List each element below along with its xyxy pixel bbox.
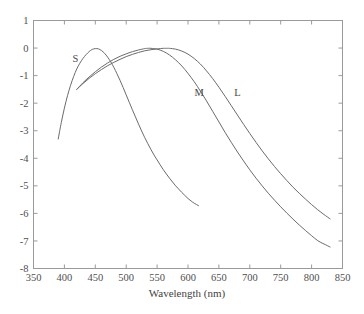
x-tick-label: 500 <box>118 272 134 283</box>
x-axis-tick-labels: 350400450500550600650700750800850 <box>26 272 351 283</box>
x-tick-label: 850 <box>335 272 351 283</box>
x-tick-label: 550 <box>149 272 165 283</box>
data-curves <box>58 48 330 247</box>
x-tick-label: 700 <box>242 272 258 283</box>
curve-label-s: S <box>73 53 79 64</box>
curve-annotations: SML <box>73 53 241 98</box>
y-tick-label: -7 <box>20 236 29 247</box>
chart-figure: 350400450500550600650700750800850 10-1-2… <box>0 0 364 314</box>
y-tick-label: -2 <box>20 98 29 109</box>
y-axis-tick-labels: 10-1-2-3-4-5-6-7-8 <box>20 15 29 274</box>
x-axis-title: Wavelength (nm) <box>149 287 226 300</box>
curve-label-l: L <box>234 87 240 98</box>
chart-canvas: 350400450500550600650700750800850 10-1-2… <box>0 0 364 314</box>
y-tick-label: 0 <box>23 43 28 54</box>
curve-l <box>77 48 330 219</box>
curve-s <box>58 49 198 206</box>
x-axis-ticks <box>34 21 343 269</box>
curve-label-m: M <box>194 87 204 98</box>
x-tick-label: 400 <box>57 272 73 283</box>
y-tick-label: -8 <box>20 263 29 274</box>
x-tick-label: 600 <box>180 272 196 283</box>
y-tick-label: 1 <box>23 15 28 26</box>
x-tick-label: 800 <box>304 272 320 283</box>
y-tick-label: -5 <box>20 180 29 191</box>
x-tick-label: 750 <box>273 272 289 283</box>
y-axis-ticks <box>34 21 343 269</box>
x-tick-label: 450 <box>87 272 103 283</box>
y-tick-label: -1 <box>20 70 29 81</box>
axes-frame <box>34 21 343 269</box>
curve-m <box>77 48 330 247</box>
x-tick-label: 650 <box>211 272 227 283</box>
y-tick-label: -4 <box>20 153 29 164</box>
y-tick-label: -3 <box>20 125 29 136</box>
y-tick-label: -6 <box>20 208 29 219</box>
